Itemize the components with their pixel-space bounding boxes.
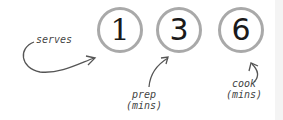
prep-circle: 3	[156, 7, 202, 53]
serves-value: 1	[110, 15, 129, 45]
serves-label: serves	[36, 34, 72, 45]
cook-circle: 6	[218, 7, 264, 53]
prep-label-line2: (mins)	[124, 100, 164, 111]
prep-value: 3	[169, 15, 188, 45]
cook-label-line2: (mins)	[223, 89, 265, 100]
serves-arrow-icon	[23, 42, 94, 72]
cook-label-line1: cook	[223, 78, 265, 89]
prep-arrow-icon	[149, 58, 168, 87]
prep-label-line1: prep	[124, 89, 164, 100]
serves-circle: 1	[97, 7, 143, 53]
cook-value: 6	[231, 15, 250, 45]
prep-label: prep (mins)	[124, 89, 164, 111]
cook-label: cook (mins)	[223, 78, 265, 100]
